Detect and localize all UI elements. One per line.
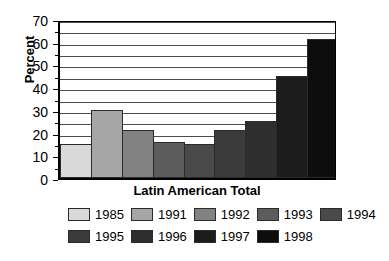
legend-swatch-icon bbox=[131, 208, 153, 221]
bar-1998 bbox=[307, 39, 336, 178]
legend-label: 1997 bbox=[221, 230, 250, 243]
bar-chart: Percent 010203040506070 Latin American T… bbox=[0, 0, 389, 261]
legend-item-1997[interactable]: 1997 bbox=[194, 230, 250, 243]
legend-swatch-icon bbox=[68, 230, 90, 243]
legend-swatch-icon bbox=[194, 208, 216, 221]
legend-label: 1985 bbox=[95, 208, 124, 221]
legend-swatch-icon bbox=[131, 230, 153, 243]
legend-swatch-icon bbox=[257, 230, 279, 243]
legend-swatch-icon bbox=[320, 208, 342, 221]
legend-label: 1991 bbox=[158, 208, 187, 221]
legend-item-1993[interactable]: 1993 bbox=[257, 208, 313, 221]
legend-item-1994[interactable]: 1994 bbox=[320, 208, 376, 221]
legend-label: 1995 bbox=[95, 230, 124, 243]
legend-label: 1996 bbox=[158, 230, 187, 243]
legend-label: 1998 bbox=[284, 230, 313, 243]
chart-legend: 198519911992199319941995199619971998 bbox=[58, 206, 348, 250]
y-axis-tick-label: 40 bbox=[2, 82, 48, 96]
x-axis-title: Latin American Total bbox=[58, 183, 336, 198]
y-axis-tick-label: 30 bbox=[2, 105, 48, 119]
legend-item-1995[interactable]: 1995 bbox=[68, 230, 124, 243]
bar-1997 bbox=[276, 76, 308, 178]
legend-swatch-icon bbox=[194, 230, 216, 243]
bar-1992 bbox=[122, 130, 154, 178]
legend-row: 1995199619971998 bbox=[58, 228, 348, 244]
legend-item-1985[interactable]: 1985 bbox=[68, 208, 124, 221]
y-axis-tick bbox=[53, 180, 58, 181]
y-axis-tick-label: 50 bbox=[2, 59, 48, 73]
bar-1995 bbox=[214, 130, 246, 178]
bar-group bbox=[60, 22, 335, 178]
legend-swatch-icon bbox=[257, 208, 279, 221]
y-axis-tick-label: 0 bbox=[2, 173, 48, 187]
bar-1996 bbox=[245, 121, 277, 178]
y-axis-tick-label: 60 bbox=[2, 37, 48, 51]
legend-label: 1993 bbox=[284, 208, 313, 221]
legend-item-1998[interactable]: 1998 bbox=[257, 230, 313, 243]
y-axis-tick-label: 20 bbox=[2, 128, 48, 142]
bar-1991 bbox=[91, 110, 123, 178]
bar-1985 bbox=[60, 144, 92, 178]
legend-row: 19851991199219931994 bbox=[58, 206, 348, 222]
legend-item-1991[interactable]: 1991 bbox=[131, 208, 187, 221]
legend-swatch-icon bbox=[68, 208, 90, 221]
legend-item-1996[interactable]: 1996 bbox=[131, 230, 187, 243]
y-axis-tick-label: 70 bbox=[2, 14, 48, 28]
plot-area bbox=[58, 21, 336, 180]
legend-item-1992[interactable]: 1992 bbox=[194, 208, 250, 221]
bar-1993 bbox=[153, 142, 185, 178]
bar-1994 bbox=[184, 144, 216, 178]
legend-label: 1992 bbox=[221, 208, 250, 221]
y-axis-tick-label: 10 bbox=[2, 150, 48, 164]
legend-label: 1994 bbox=[347, 208, 376, 221]
